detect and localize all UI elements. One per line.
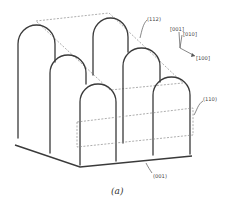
leader-110 bbox=[194, 101, 203, 115]
label-001: (001) bbox=[153, 173, 167, 179]
axis-triad: [001] [010] [100] bbox=[170, 26, 210, 61]
base-plane-001 bbox=[15, 145, 192, 167]
axis-label-100: [100] bbox=[196, 55, 210, 61]
plane-110-outline bbox=[77, 108, 193, 147]
plane-112-outline bbox=[36, 13, 183, 90]
axis-label-001: [001] bbox=[170, 26, 184, 32]
arch-front-right bbox=[153, 77, 190, 155]
crystal-arch-diagram: (112) (110) (001) [001] [010] [100] (a) bbox=[0, 0, 235, 207]
figure-caption: (a) bbox=[111, 186, 124, 196]
label-110: (110) bbox=[203, 96, 217, 102]
leader-112 bbox=[140, 20, 147, 38]
leader-001 bbox=[146, 163, 152, 173]
axis-label-010: [010] bbox=[183, 31, 197, 37]
arch-middle-right bbox=[123, 48, 160, 143]
arch-front-left bbox=[80, 84, 116, 165]
label-112: (112) bbox=[147, 16, 161, 22]
